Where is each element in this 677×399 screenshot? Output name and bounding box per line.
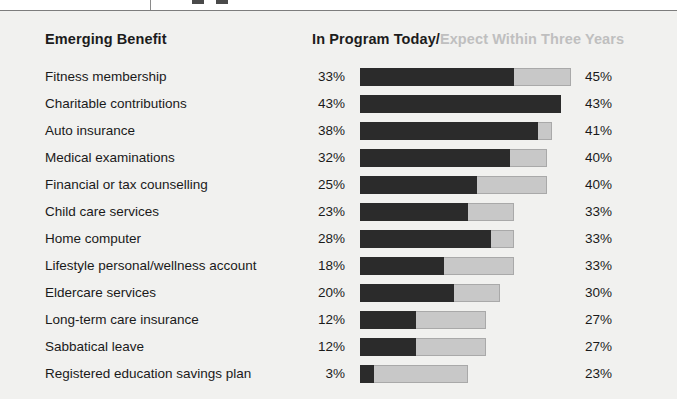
row-label: Sabbatical leave [45,339,144,354]
bar-segment-expect-within-three-years [538,122,552,140]
bar-segment-in-program-today [360,284,454,302]
value-in-program-today: 12% [290,339,345,354]
stacked-bar [360,365,468,383]
bar-segment-in-program-today [360,365,374,383]
chart-header: Emerging Benefit In Program Today/Expect… [0,31,677,53]
bar-segment-expect-within-three-years [468,203,515,221]
value-in-program-today: 38% [290,123,345,138]
chart-row: Long-term care insurance12%27% [0,310,677,337]
row-label: Registered education savings plan [45,366,251,381]
top-text-fragment-left [192,0,204,4]
bar-segment-expect-within-three-years [477,176,547,194]
stacked-bar [360,311,486,329]
stacked-bar [360,284,500,302]
row-label: Eldercare services [45,285,156,300]
row-label: Lifestyle personal/wellness account [45,258,257,273]
value-in-program-today: 25% [290,177,345,192]
stacked-bar [360,149,547,167]
chart-row: Medical examinations32%40% [0,148,677,175]
value-expect-within-three-years: 33% [585,258,630,273]
bar-segment-in-program-today [360,257,444,275]
value-expect-within-three-years: 41% [585,123,630,138]
bar-segment-expect-within-three-years [444,257,514,275]
stacked-bar [360,338,486,356]
bar-segment-in-program-today [360,95,561,113]
row-label: Medical examinations [45,150,175,165]
chart-row: Auto insurance38%41% [0,121,677,148]
row-label: Financial or tax counselling [45,177,208,192]
column-header-legend: In Program Today/Expect Within Three Yea… [312,31,624,47]
bar-segment-expect-within-three-years [374,365,468,383]
row-label: Long-term care insurance [45,312,199,327]
value-expect-within-three-years: 30% [585,285,630,300]
value-in-program-today: 32% [290,150,345,165]
value-in-program-today: 43% [290,96,345,111]
row-label: Auto insurance [45,123,135,138]
chart-row: Sabbatical leave12%27% [0,337,677,364]
bar-segment-in-program-today [360,122,538,140]
value-expect-within-three-years: 40% [585,150,630,165]
value-in-program-today: 33% [290,69,345,84]
legend-label-in-program-today: In Program Today [312,31,436,47]
value-expect-within-three-years: 27% [585,339,630,354]
value-in-program-today: 20% [290,285,345,300]
chart-row: Charitable contributions43%43% [0,94,677,121]
bar-segment-expect-within-three-years [514,68,570,86]
chart-row: Financial or tax counselling25%40% [0,175,677,202]
row-label: Charitable contributions [45,96,187,111]
chart-row: Registered education savings plan3%23% [0,364,677,391]
bar-segment-expect-within-three-years [510,149,547,167]
value-in-program-today: 28% [290,231,345,246]
value-expect-within-three-years: 45% [585,69,630,84]
bar-segment-in-program-today [360,68,514,86]
stacked-bar [360,68,571,86]
stacked-bar [360,203,514,221]
bar-segment-in-program-today [360,311,416,329]
row-label: Child care services [45,204,159,219]
stacked-bar [360,176,547,194]
stacked-bar [360,257,514,275]
bar-segment-expect-within-three-years [416,311,486,329]
value-expect-within-three-years: 43% [585,96,630,111]
value-expect-within-three-years: 27% [585,312,630,327]
chart-row: Child care services23%33% [0,202,677,229]
chart-row: Home computer28%33% [0,229,677,256]
value-in-program-today: 12% [290,312,345,327]
chart-panel: Emerging Benefit In Program Today/Expect… [0,11,677,399]
chart-page: Emerging Benefit In Program Today/Expect… [0,0,677,399]
stacked-bar [360,122,552,140]
value-in-program-today: 3% [290,366,345,381]
bar-segment-expect-within-three-years [416,338,486,356]
chart-row: Eldercare services20%30% [0,283,677,310]
column-header-emerging-benefit: Emerging Benefit [45,31,167,47]
bar-segment-in-program-today [360,149,510,167]
stacked-bar [360,95,561,113]
legend-label-expect-within-three-years: Expect Within Three Years [440,31,624,47]
value-expect-within-three-years: 23% [585,366,630,381]
top-text-fragment-right [216,0,228,4]
bar-segment-in-program-today [360,176,477,194]
value-expect-within-three-years: 33% [585,204,630,219]
bar-segment-in-program-today [360,203,468,221]
bar-segment-expect-within-three-years [454,284,501,302]
stacked-bar [360,230,514,248]
chart-row: Fitness membership33%45% [0,67,677,94]
bar-segment-in-program-today [360,230,491,248]
row-label: Fitness membership [45,69,167,84]
chart-rows: Fitness membership33%45%Charitable contr… [0,67,677,391]
row-label: Home computer [45,231,141,246]
value-expect-within-three-years: 33% [585,231,630,246]
top-divider-tick [150,0,151,10]
value-in-program-today: 18% [290,258,345,273]
bar-segment-expect-within-three-years [491,230,514,248]
bar-segment-in-program-today [360,338,416,356]
value-expect-within-three-years: 40% [585,177,630,192]
chart-row: Lifestyle personal/wellness account18%33… [0,256,677,283]
value-in-program-today: 23% [290,204,345,219]
